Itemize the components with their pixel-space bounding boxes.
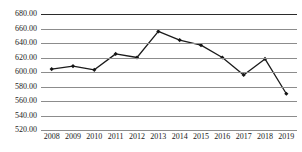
gridline: [41, 101, 297, 102]
gridline: [41, 29, 297, 30]
x-axis-tick-label: 2019: [273, 132, 299, 142]
chart-title: [0, 0, 302, 5]
y-axis-tick-label: 560.00: [0, 97, 37, 105]
y-axis-tick-label: 520.00: [0, 126, 37, 134]
gridline: [41, 130, 297, 131]
gridline: [41, 116, 297, 117]
x-axis: 2008200920102011201220132014201520162017…: [41, 132, 297, 146]
y-axis-tick-label: 540.00: [0, 112, 37, 120]
data-point-marker: [50, 67, 54, 71]
y-axis-tick-label: 680.00: [0, 10, 37, 18]
y-axis-tick-label: 600.00: [0, 68, 37, 76]
data-point-marker: [71, 64, 75, 68]
y-axis-tick-label: 640.00: [0, 39, 37, 47]
series-line: [52, 31, 287, 93]
y-axis-tick-label: 660.00: [0, 25, 37, 33]
plot-area: [41, 14, 297, 130]
gridline: [41, 87, 297, 88]
gridline: [41, 72, 297, 73]
y-axis-tick-label: 620.00: [0, 54, 37, 62]
line-chart: 680.00660.00640.00620.00600.00580.00560.…: [0, 0, 302, 152]
y-axis: 680.00660.00640.00620.00600.00580.00560.…: [0, 0, 40, 152]
gridline: [41, 43, 297, 44]
y-axis-tick-label: 580.00: [0, 83, 37, 91]
data-point-marker: [178, 38, 182, 42]
gridline: [41, 58, 297, 59]
gridline: [41, 14, 297, 15]
